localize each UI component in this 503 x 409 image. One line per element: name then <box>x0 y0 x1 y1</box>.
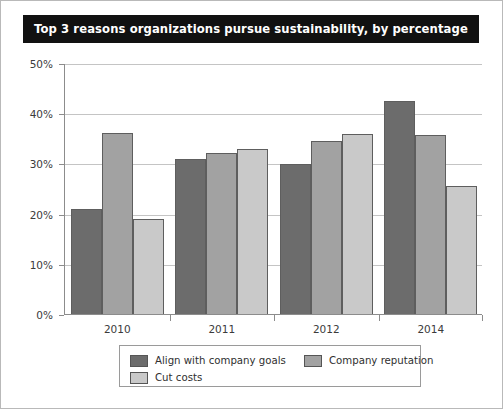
legend-label: Align with company goals <box>155 355 286 366</box>
bar <box>342 134 373 314</box>
legend-item[interactable]: Align with company goals <box>130 352 286 369</box>
bar <box>175 159 206 314</box>
bar <box>311 141 342 314</box>
bar <box>237 149 268 314</box>
x-tick-mark <box>170 315 171 321</box>
legend-swatch-icon <box>130 355 148 367</box>
y-tick-mark <box>59 315 64 316</box>
y-tick-label: 10% <box>13 259 53 271</box>
chart-legend: Align with company goalsCompany reputati… <box>119 345 421 387</box>
plot-area: 2010201120122014 <box>64 64 482 315</box>
x-tick-label: 2014 <box>391 323 471 335</box>
x-tick-label: 2010 <box>77 323 157 335</box>
chart-title: Top 3 reasons organizations pursue susta… <box>23 22 468 36</box>
chart-figure: Top 3 reasons organizations pursue susta… <box>0 0 503 409</box>
x-tick-label: 2012 <box>286 323 366 335</box>
legend-swatch-icon <box>304 355 322 367</box>
x-tick-mark <box>274 315 275 321</box>
x-tick-mark <box>379 315 380 321</box>
legend-label: Company reputation <box>329 355 434 366</box>
legend-row: Cut costs <box>130 369 420 386</box>
y-tick-label: 40% <box>13 108 53 120</box>
legend-swatch-icon <box>130 372 148 384</box>
bar-group <box>170 63 275 314</box>
x-tick-mark <box>482 315 483 321</box>
bar <box>415 135 446 314</box>
legend-item[interactable]: Company reputation <box>304 352 434 369</box>
bar <box>133 219 164 314</box>
legend-row: Align with company goalsCompany reputati… <box>130 352 420 369</box>
x-tick-label: 2011 <box>182 323 262 335</box>
legend-label: Cut costs <box>155 372 202 383</box>
y-axis: 0%10%20%30%40%50% <box>1 64 64 316</box>
chart-title-bar: Top 3 reasons organizations pursue susta… <box>23 15 479 43</box>
bar <box>102 133 133 314</box>
y-tick-label: 30% <box>13 158 53 170</box>
bar <box>280 164 311 314</box>
legend-item[interactable]: Cut costs <box>130 369 202 386</box>
bar <box>384 101 415 314</box>
bar-group <box>65 63 170 314</box>
y-tick-label: 50% <box>13 58 53 70</box>
bar-group <box>274 63 379 314</box>
bar <box>71 209 102 314</box>
y-tick-label: 0% <box>13 309 53 321</box>
y-tick-label: 20% <box>13 209 53 221</box>
bar-group <box>379 63 484 314</box>
bar <box>206 153 237 314</box>
bar <box>446 186 477 314</box>
